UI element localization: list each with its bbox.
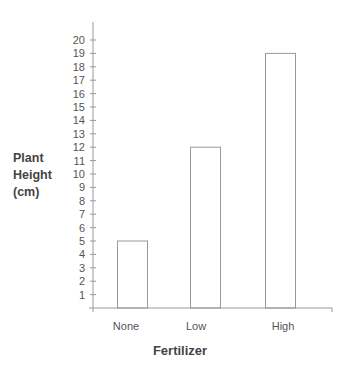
y-tick-label: 2 xyxy=(79,275,85,287)
y-tick-label: 6 xyxy=(79,222,85,234)
y-tick-label: 19 xyxy=(73,47,85,59)
y-tick-label: 7 xyxy=(79,208,85,220)
y-tick-label: 10 xyxy=(73,168,85,180)
bar-low xyxy=(191,147,221,308)
y-tick-label: 9 xyxy=(79,181,85,193)
bar-chart: 1234567891011121314151617181920 NoneLowH… xyxy=(0,0,347,369)
y-tick-label: 11 xyxy=(74,155,85,167)
x-axis-title: Fertilizer xyxy=(153,343,207,358)
y-tick-label: 14 xyxy=(73,114,85,126)
y-tick-label: 16 xyxy=(73,88,85,100)
y-tick-label: 8 xyxy=(79,195,85,207)
y-tick-label: 20 xyxy=(73,34,85,46)
x-category-label: Low xyxy=(186,320,206,332)
y-tick-label: 15 xyxy=(73,101,85,113)
y-tick-label: 4 xyxy=(79,248,85,260)
bars xyxy=(118,53,296,308)
y-tick-label: 17 xyxy=(73,74,85,86)
y-tick-label: 13 xyxy=(73,128,85,140)
y-tick-label: 3 xyxy=(79,262,85,274)
bar-high xyxy=(266,53,296,308)
x-axis: NoneLowHigh xyxy=(89,308,332,332)
x-category-label: None xyxy=(113,320,139,332)
y-axis: 1234567891011121314151617181920 xyxy=(73,22,96,312)
y-tick-label: 1 xyxy=(79,289,85,301)
y-tick-label: 5 xyxy=(79,235,85,247)
y-tick-label: 18 xyxy=(73,61,85,73)
x-category-label: High xyxy=(272,320,295,332)
y-tick-label: 12 xyxy=(73,141,85,153)
bar-none xyxy=(118,241,148,308)
